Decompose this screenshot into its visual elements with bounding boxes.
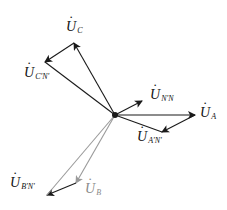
- vector-u-b-n-: [47, 183, 76, 195]
- label-u-nn: UN'N: [150, 86, 174, 102]
- label-u-a: UA: [200, 104, 216, 120]
- vector-group: [45, 43, 195, 195]
- label-u-c: UC: [66, 18, 82, 34]
- vector-u-c: [74, 43, 115, 115]
- vector-u-c-n-from-origin: [45, 62, 115, 115]
- vector-u-b: [76, 115, 115, 183]
- label-u-bn: UB'N': [10, 174, 35, 190]
- vector-u-c-n-: [45, 43, 74, 62]
- label-u-b: UB: [85, 180, 101, 196]
- label-u-cn: UC'N': [24, 64, 49, 80]
- vector-u-n-n: [115, 101, 142, 115]
- vector-u-a-n-: [162, 115, 195, 132]
- label-u-an: UA'N': [137, 128, 162, 144]
- origin-point: [112, 112, 118, 118]
- vector-u-b-n-from-origin: [47, 115, 115, 195]
